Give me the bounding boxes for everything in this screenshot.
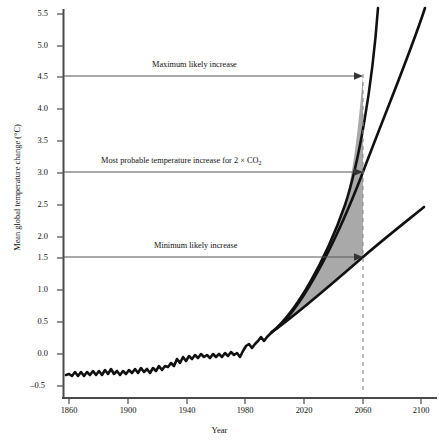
annotation-label-maximum: Maximum likely increase [152, 60, 237, 69]
y-tick-label: 0.5 [14, 317, 48, 326]
y-tick-label: 0.0 [14, 349, 48, 358]
y-axis-ticks [57, 14, 63, 386]
y-tick-label: 4.5 [14, 72, 48, 81]
x-tick-label: 2100 [399, 406, 439, 415]
climate-projection-figure: 5.5 5.0 4.5 4.0 3.5 3.0 2.5 2.0 1.5 1.0 … [0, 0, 439, 446]
observed-temperature-line [66, 332, 272, 376]
y-tick-label: 1.0 [14, 285, 48, 294]
y-tick-label: 5.0 [14, 41, 48, 50]
x-tick-label: 1900 [106, 406, 150, 415]
y-tick-label: 5.5 [14, 9, 48, 18]
x-tick-label: 1940 [165, 406, 209, 415]
annotation-most-probable-subscript: 2 [258, 160, 261, 166]
x-tick-label: 1860 [47, 406, 91, 415]
y-axis-title: Mean global temperature change (°C) [13, 113, 22, 263]
x-tick-label: 2060 [341, 406, 385, 415]
x-tick-label: 2020 [282, 406, 326, 415]
annotation-most-probable-main: Most probable temperature increase for 2… [101, 156, 258, 165]
mid-projection-line [272, 8, 425, 332]
annotation-label-most-probable: Most probable temperature increase for 2… [101, 156, 261, 165]
annotation-arrow-max [64, 72, 363, 80]
annotation-label-minimum: Minimum likely increase [154, 241, 237, 250]
annotation-arrow-mid [64, 168, 363, 176]
x-tick-label: 1980 [223, 406, 267, 415]
x-axis-title: Year [0, 425, 439, 435]
annotation-arrow-min [64, 253, 363, 261]
y-tick-label: –0.5 [11, 381, 45, 390]
